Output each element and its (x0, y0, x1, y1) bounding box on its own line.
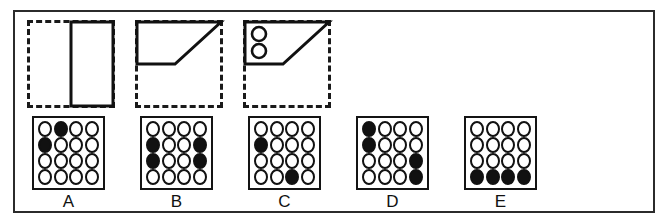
circle-filled (54, 121, 68, 137)
circle-filled (501, 169, 515, 185)
circle-empty (301, 153, 315, 169)
circle-empty (486, 137, 500, 153)
circle-empty (409, 121, 423, 137)
circle-empty (54, 137, 68, 153)
circle-filled (193, 137, 207, 153)
circle-empty (393, 121, 407, 137)
circle-empty (162, 121, 176, 137)
option-e-label: E (459, 192, 542, 212)
circle-filled (254, 137, 268, 153)
circle-empty (378, 169, 392, 185)
circle-empty (38, 169, 52, 185)
circle-filled (362, 137, 376, 153)
circle-filled (470, 169, 484, 185)
circle-empty (486, 153, 500, 169)
circle-empty (270, 121, 284, 137)
circle-empty (501, 153, 515, 169)
circle-filled (38, 137, 52, 153)
circle-empty (254, 169, 268, 185)
stimulus-row (15, 12, 653, 112)
option-a[interactable]: A (27, 116, 123, 212)
circle-empty (378, 121, 392, 137)
circle-empty (146, 169, 160, 185)
circle-empty (378, 153, 392, 169)
circle-empty (85, 137, 99, 153)
circle-filled (146, 137, 160, 153)
circle-empty (362, 153, 376, 169)
circle-empty (470, 121, 484, 137)
circle-empty (254, 121, 268, 137)
circle-empty (69, 137, 83, 153)
circle-empty (38, 153, 52, 169)
option-d[interactable]: D (351, 116, 447, 212)
circle-empty (409, 137, 423, 153)
option-b[interactable]: B (135, 116, 231, 212)
option-b-label: B (135, 192, 218, 212)
option-e[interactable]: E (459, 116, 555, 212)
circle-empty (470, 137, 484, 153)
circle-empty (301, 121, 315, 137)
circle-empty (285, 121, 299, 137)
stimulus-figure-1 (27, 20, 115, 108)
circle-filled (362, 121, 376, 137)
circle-empty (517, 121, 531, 137)
circle-empty (393, 169, 407, 185)
circle-empty (69, 121, 83, 137)
trapezoid-shape-icon (135, 20, 223, 108)
circle-filled (409, 153, 423, 169)
circle-filled (193, 153, 207, 169)
circle-empty (162, 169, 176, 185)
circle-empty (378, 137, 392, 153)
circle-filled (285, 169, 299, 185)
circle-empty (54, 153, 68, 169)
option-a-label: A (27, 192, 110, 212)
trapezoid-with-circles-shape-icon (243, 20, 331, 108)
circle-empty (177, 137, 191, 153)
option-d-grid[interactable] (356, 116, 429, 190)
circle-filled (409, 169, 423, 185)
stimulus-figure-2 (135, 20, 223, 108)
circle-empty (501, 137, 515, 153)
option-e-grid[interactable] (464, 116, 537, 190)
circle-empty (85, 121, 99, 137)
circle-empty (270, 137, 284, 153)
circle-empty (301, 169, 315, 185)
puzzle-frame: A B C D E (13, 10, 655, 213)
circle-empty (517, 137, 531, 153)
circle-empty (362, 169, 376, 185)
circle-empty (146, 121, 160, 137)
circle-empty (393, 137, 407, 153)
circle-filled (517, 169, 531, 185)
circle-empty (393, 153, 407, 169)
circle-empty (193, 121, 207, 137)
circle-empty (85, 153, 99, 169)
circle-empty (177, 169, 191, 185)
option-b-grid[interactable] (140, 116, 213, 190)
option-a-grid[interactable] (32, 116, 105, 190)
circle-empty (38, 121, 52, 137)
circle-empty (69, 153, 83, 169)
circle-empty (162, 137, 176, 153)
option-c[interactable]: C (243, 116, 339, 212)
circle-empty (193, 169, 207, 185)
options-row: A B C D E (15, 112, 653, 213)
circle-empty (501, 121, 515, 137)
circle-empty (486, 121, 500, 137)
circle-empty (177, 121, 191, 137)
circle-empty (162, 153, 176, 169)
circle-empty (285, 137, 299, 153)
circle-empty (69, 169, 83, 185)
circle-empty (270, 153, 284, 169)
option-c-grid[interactable] (248, 116, 321, 190)
circle-empty (270, 169, 284, 185)
stimulus-figure-3 (243, 20, 331, 108)
option-c-label: C (243, 192, 326, 212)
circle-empty (54, 169, 68, 185)
circle-empty (254, 153, 268, 169)
circle-filled (486, 169, 500, 185)
circle-empty (470, 153, 484, 169)
circle-empty (301, 137, 315, 153)
circle-empty (177, 153, 191, 169)
circle-empty (285, 153, 299, 169)
circle-filled (146, 153, 160, 169)
